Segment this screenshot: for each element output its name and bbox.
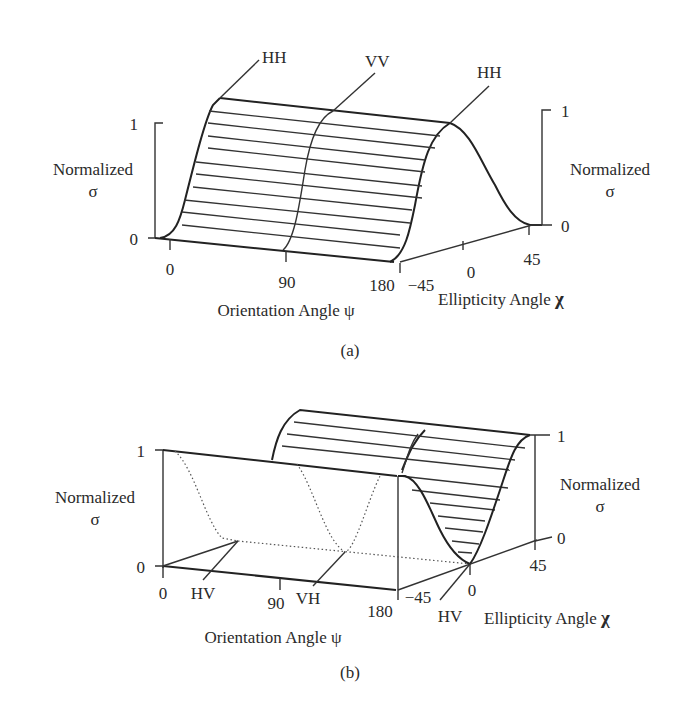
psi-tick-0-a: 0 xyxy=(166,260,175,279)
callout-leader-vv xyxy=(333,73,375,111)
hidden-curve-mid-b xyxy=(297,464,380,552)
orientation-axis-line-a xyxy=(155,238,394,262)
polarization-signature-figure: 1 0 Normalized σ xyxy=(0,0,700,707)
chi-tick-0-b: 0 xyxy=(468,581,477,600)
chi-tick-0-a: 0 xyxy=(467,263,476,282)
left-sigma-axis-b xyxy=(155,450,163,568)
callout-hv-right: HV xyxy=(438,607,463,626)
surface-top-edge-a xyxy=(220,98,450,123)
surface-hatching-back-b xyxy=(282,422,525,553)
callout-leader-hh-left xyxy=(220,60,259,98)
right-tick-1-b: 1 xyxy=(557,427,566,446)
right-axis-label-a: Normalized xyxy=(570,160,651,179)
orientation-axis-title-a: Orientation Angle ψ xyxy=(217,301,355,320)
ellipticity-axis-title-a: Ellipticity Angle χ xyxy=(438,288,564,309)
ellipticity-valley-front-b xyxy=(398,476,470,564)
right-sigma-axis-b xyxy=(530,435,552,541)
psi-tick-180-b: 180 xyxy=(367,602,393,621)
back-surface-top-edge-b xyxy=(272,410,530,460)
caption-a: (a) xyxy=(341,341,360,360)
left-axis-sigma-a: σ xyxy=(88,182,97,201)
chi-tick-minus45-b: −45 xyxy=(405,588,432,607)
psi-tick-180-a: 180 xyxy=(369,276,395,295)
hidden-curve-left-b xyxy=(175,451,238,541)
right-axis-label-b: Normalized xyxy=(560,475,641,494)
hidden-valley-line-b xyxy=(238,541,470,564)
right-tick-0-a: 0 xyxy=(561,217,570,236)
psi-tick-90-a: 90 xyxy=(279,273,296,292)
surface-left-profile-a xyxy=(160,98,220,238)
right-tick-1-a: 1 xyxy=(561,102,570,121)
caption-b: (b) xyxy=(340,663,360,682)
callout-hh-right: HH xyxy=(477,63,502,82)
surface-hatching-a xyxy=(182,111,440,248)
orientation-axis-title-b: Orientation Angle ψ xyxy=(204,628,342,647)
callout-hv-left: HV xyxy=(191,584,216,603)
callout-leader-vh xyxy=(313,552,345,586)
right-sigma-axis-a xyxy=(532,110,552,225)
right-axis-sigma-a: σ xyxy=(605,182,614,201)
left-axis-label-a: Normalized xyxy=(53,160,134,179)
ellipticity-axis-title-b: Ellipticity Angle χ xyxy=(484,607,610,628)
chi-tick-45-a: 45 xyxy=(524,250,541,269)
figure-a-copolarized-signature: 1 0 Normalized σ xyxy=(53,48,651,360)
left-tick-1-b: 1 xyxy=(137,442,146,461)
left-tick-1-a: 1 xyxy=(130,115,139,134)
callout-leader-hh-right xyxy=(450,86,489,123)
left-sigma-axis-a xyxy=(148,123,163,238)
right-axis-sigma-b: σ xyxy=(595,497,604,516)
callout-hh-left: HH xyxy=(262,48,287,67)
callout-vv: VV xyxy=(365,52,390,71)
chi-tick-minus45-a: −45 xyxy=(408,276,435,295)
left-axis-sigma-b: σ xyxy=(90,510,99,529)
left-tick-0-a: 0 xyxy=(130,230,139,249)
right-tick-0-b: 0 xyxy=(557,529,566,548)
figure-b-crosspolarized-signature: 1 0 Normalized σ 1 0 Normalized σ xyxy=(55,410,641,682)
ellipticity-axis-line-a xyxy=(400,225,532,262)
left-tick-0-b: 0 xyxy=(137,558,146,577)
ellipticity-profile-a xyxy=(450,123,542,225)
left-axis-label-b: Normalized xyxy=(55,488,136,507)
ellipticity-ticks-a xyxy=(463,226,529,250)
callout-vh: VH xyxy=(296,589,321,608)
psi-tick-90-b: 90 xyxy=(268,594,285,613)
psi-tick-0-b: 0 xyxy=(159,584,168,603)
chi-tick-45-b: 45 xyxy=(530,556,547,575)
